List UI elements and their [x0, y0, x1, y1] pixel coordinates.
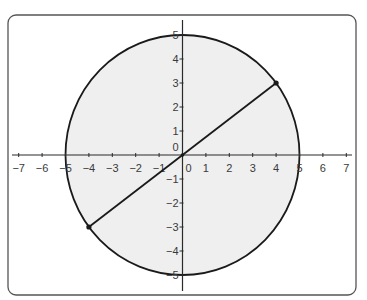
x-tick-label: −5 [59, 162, 72, 174]
x-tick-label: 5 [296, 162, 302, 174]
x-tick-label: 7 [343, 162, 349, 174]
y-tick-label: −3 [166, 221, 179, 233]
y-tick-label: −5 [166, 269, 179, 281]
y-tick-label: −1 [166, 173, 179, 185]
y-tick-label: −4 [166, 245, 179, 257]
y-tick-label: 2 [172, 101, 178, 113]
x-tick-label: −4 [83, 162, 96, 174]
y-tick-label: 0 [172, 141, 178, 153]
y-tick-label: 3 [172, 77, 178, 89]
x-tick-label: 2 [226, 162, 232, 174]
x-tick-label: −2 [129, 162, 142, 174]
y-tick-label: 1 [172, 125, 178, 137]
x-tick-label: 0 [185, 162, 191, 174]
y-tick-label: 4 [172, 53, 178, 65]
x-tick-label: −6 [36, 162, 49, 174]
y-tick-label: −2 [166, 197, 179, 209]
x-tick-label: 3 [250, 162, 256, 174]
x-tick-label: 4 [273, 162, 279, 174]
point-neg4-neg3 [86, 224, 91, 229]
x-tick-label: 6 [320, 162, 326, 174]
x-tick-label: −3 [106, 162, 119, 174]
x-tick-label: 1 [203, 162, 209, 174]
x-tick-label: −7 [12, 162, 25, 174]
origin-point [181, 153, 185, 157]
chart-figure: −7−6−5−4−3−2−101234567 543210−1−2−3−4−5 [0, 0, 367, 300]
y-tick-label: 5 [172, 29, 178, 41]
point-4-3 [274, 80, 279, 85]
